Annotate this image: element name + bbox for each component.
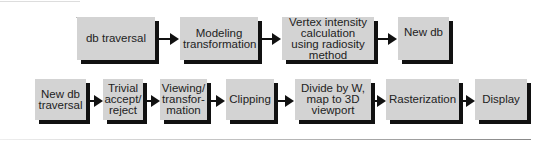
node-new-db: New db — [398, 17, 449, 60]
node-label: New db — [404, 27, 443, 38]
node-vertex-intensity: Vertex intensity calculation using radio… — [282, 17, 374, 60]
node-modeling-transformation: Modeling transformation — [180, 17, 258, 60]
node-label: db traversal — [86, 33, 146, 44]
node-label: Viewing/ transfor- mation — [162, 83, 206, 116]
node-divide-by-w: Divide by W, map to 3D viewport — [295, 79, 371, 120]
node-label: Display — [482, 94, 520, 105]
arrow — [375, 100, 384, 102]
arrow — [378, 38, 395, 40]
arrow — [262, 38, 279, 40]
node-label: Vertex intensity calculation using radio… — [287, 17, 369, 61]
node-label: New db traversal — [37, 89, 85, 111]
bottom-rule — [0, 139, 531, 140]
arrow — [159, 38, 177, 40]
node-label: Modeling transformation — [183, 28, 255, 50]
node-new-db-traversal: New db traversal — [35, 79, 86, 120]
arrow — [278, 100, 292, 102]
arrow — [90, 100, 101, 102]
node-display: Display — [475, 79, 527, 120]
node-label: Clipping — [229, 94, 271, 105]
node-clipping: Clipping — [226, 79, 274, 120]
node-label: Divide by W, map to 3D viewport — [298, 83, 368, 116]
arrow — [463, 100, 473, 102]
node-trivial-accept-reject: Trivial accept/ reject — [103, 79, 143, 120]
node-viewing-transformation: Viewing/ transfor- mation — [160, 79, 207, 120]
node-label: Rasterization — [389, 94, 456, 105]
arrow — [147, 100, 158, 102]
node-label: Trivial accept/ reject — [104, 83, 142, 116]
arrow — [211, 100, 223, 102]
node-db-traversal: db traversal — [77, 17, 155, 60]
top-rule — [0, 1, 80, 2]
node-rasterization: Rasterization — [386, 79, 459, 120]
